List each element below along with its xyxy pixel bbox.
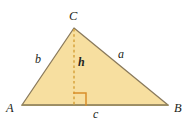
vertex-label-a: A: [6, 102, 14, 115]
vertex-label-c: C: [69, 10, 77, 23]
side-label-b: b: [35, 53, 41, 65]
side-label-a: a: [118, 48, 124, 60]
height-label-h: h: [78, 56, 85, 68]
triangle-shape: [22, 28, 168, 105]
vertex-label-b: B: [174, 102, 182, 115]
triangle-area-diagram: A B C b a c h: [0, 0, 187, 126]
side-label-c: c: [93, 108, 98, 120]
